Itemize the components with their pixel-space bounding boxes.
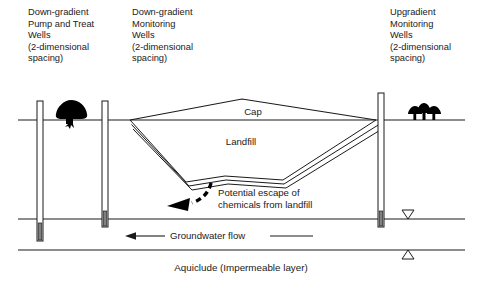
potential-escape-label: Potential escape of chemicals from landf… bbox=[218, 187, 312, 210]
groundwater-flow-arrow bbox=[125, 232, 165, 239]
well-screen bbox=[379, 211, 383, 226]
landfill-liner bbox=[130, 120, 382, 190]
water-table-marker-icon bbox=[402, 210, 414, 219]
well-screen bbox=[103, 211, 107, 226]
aquiclude-caption: Aquiclude (Impermeable layer) bbox=[174, 262, 307, 273]
landfill-cross-section-figure: Down-gradient Pump and Treat Wells (2-di… bbox=[0, 0, 483, 282]
upgradient-monitoring-well[interactable] bbox=[378, 93, 384, 227]
down-gradient-monitoring-wells-label: Down-gradient Monitoring Wells (2-dimens… bbox=[132, 7, 196, 63]
aquiclude-marker-icon bbox=[402, 250, 414, 259]
landfill-label: Landfill bbox=[226, 136, 256, 147]
three-trees-silhouette-icon bbox=[408, 103, 441, 120]
pump-and-treat-well[interactable] bbox=[37, 101, 43, 241]
cap-label: Cap bbox=[244, 106, 262, 117]
bush-silhouette-icon bbox=[56, 100, 87, 129]
down-gradient-pump-and-treat-wells-label: Down-gradient Pump and Treat Wells (2-di… bbox=[28, 7, 97, 63]
down-gradient-monitoring-well[interactable] bbox=[102, 101, 108, 227]
upgradient-monitoring-wells-label: Upgradient Monitoring Wells (2-dimension… bbox=[390, 7, 454, 63]
groundwater-flow-label: Groundwater flow bbox=[170, 230, 245, 241]
well-screen bbox=[38, 223, 42, 240]
